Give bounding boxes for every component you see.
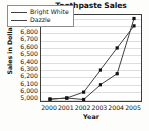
y-tick-label: 6,400 [8,59,38,65]
legend-item[interactable]: Bright White [11,8,69,16]
chart-legend: Bright WhiteDazzle [7,5,74,27]
y-tick-label: 6,500 [8,51,38,57]
y-axis-tick-labels: 10,0006,9006,8006,7006,6006,5006,4006,30… [8,14,38,102]
data-point-marker [99,83,102,86]
y-tick-label: 6,300 [8,66,38,72]
series-line-bright-white [50,26,134,99]
y-tick-label: 6,600 [8,44,38,50]
legend-label: Bright White [30,9,69,16]
y-tick-label: 5,000 [8,95,38,101]
y-tick-label: 6,700 [8,36,38,42]
data-point-marker [82,91,85,94]
legend-line-swatch [11,12,27,13]
data-point-marker [48,98,51,101]
y-tick-label: 6,000 [8,88,38,94]
plot-area [40,14,142,102]
legend-label: Dazzle [30,17,51,24]
data-point-marker [65,96,68,99]
y-tick-label: 6,100 [8,81,38,87]
series-line-dazzle [50,19,134,100]
chart-figure: Toothpaste Sales Sales in Dollars 10,000… [0,0,149,131]
legend-item[interactable]: Dazzle [11,16,69,24]
y-tick-label: 6,800 [8,29,38,35]
legend-line-swatch [11,20,27,21]
data-point-marker [132,17,135,20]
data-point-marker [116,46,119,49]
data-point-marker [99,68,102,71]
data-point-marker [132,24,135,27]
data-point-marker [82,98,85,101]
x-axis-title: Year [40,113,142,121]
data-point-marker [116,72,119,75]
plot-svg [41,15,142,102]
x-tick-label: 2005 [122,104,144,111]
y-tick-label: 6,200 [8,73,38,79]
